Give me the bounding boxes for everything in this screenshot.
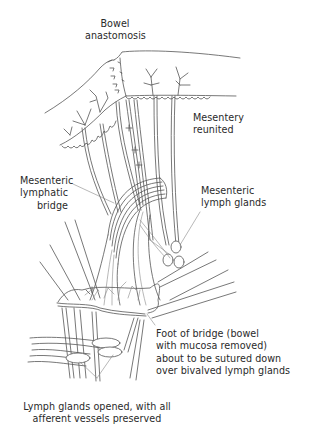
label-foot-of-bridge: Foot of bridge (bowel with mucosa remove… [156,328,290,378]
label-mesenteric-lymph-glands: Mesenteric lymph glands [201,185,266,210]
label-mesenteric-lymphatic-bridge: Mesenteric lymphatic bridge [20,175,68,212]
label-lymph-glands-opened: Lymph glands opened, with all afferent v… [22,401,172,426]
afferent-vessels [28,308,144,381]
mesentery-border [60,96,210,148]
anastomosis-sutures [108,60,124,93]
label-bowel-anastomosis: Bowel anastomosis [85,18,145,43]
bowel-outline [45,51,240,113]
retractor-lines [40,220,236,318]
label-mesentery-reunited: Mesentery reunited [193,112,244,137]
